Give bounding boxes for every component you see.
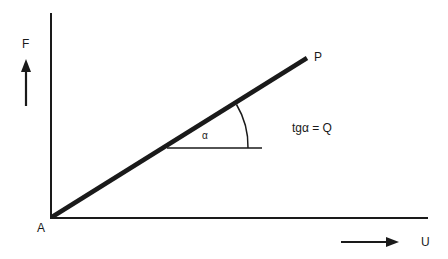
force-arrowhead-icon	[21, 59, 31, 72]
origin-label: A	[37, 222, 45, 234]
line-end-label: P	[314, 51, 322, 63]
force-displacement-diagram	[0, 0, 448, 259]
y-axis-label: F	[22, 38, 29, 50]
angle-arc	[237, 105, 249, 149]
angle-label: α	[202, 131, 208, 141]
slope-formula-label: tgα = Q	[292, 122, 332, 134]
characteristic-line	[52, 58, 307, 217]
x-axis-label: U	[421, 236, 430, 248]
displacement-arrowhead-icon	[386, 237, 399, 247]
